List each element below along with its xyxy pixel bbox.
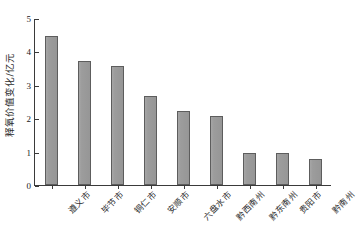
bar xyxy=(210,116,223,185)
plot-area xyxy=(34,19,331,186)
bar xyxy=(309,159,322,185)
bar xyxy=(45,36,58,185)
bar xyxy=(111,66,124,185)
x-axis-tick-label: 黔西南州 xyxy=(232,188,266,222)
bars-layer xyxy=(35,19,331,185)
bar xyxy=(78,61,91,185)
y-axis-tick-mark xyxy=(35,86,39,87)
y-axis-tick-label: 4 xyxy=(27,47,32,57)
y-axis-tick-mark xyxy=(35,153,39,154)
x-axis-tick-label: 六盘水市 xyxy=(199,188,233,222)
x-axis-tick-label: 安顺市 xyxy=(163,188,191,216)
y-axis-tick-label: 0 xyxy=(27,181,32,191)
x-axis-tick-label: 铜仁市 xyxy=(130,188,158,216)
y-axis-tick-label: 2 xyxy=(27,114,32,124)
y-axis-tick-mark xyxy=(35,52,39,53)
y-axis-tick-label: 3 xyxy=(27,81,32,91)
bar xyxy=(177,111,190,185)
x-axis-tick-label: 黔东南州 xyxy=(265,188,299,222)
x-axis-tick-label: 遵义市 xyxy=(64,188,92,216)
x-axis-tick-label: 毕节市 xyxy=(97,188,125,216)
y-axis-title: 释氧价值变化/亿元 xyxy=(0,0,18,190)
bar xyxy=(243,153,256,185)
y-axis-tick-label: 5 xyxy=(27,14,32,24)
bar xyxy=(276,153,289,185)
bar xyxy=(144,96,157,186)
x-axis-tick-labels: 遵义市毕节市铜仁市安顺市六盘水市黔西南州黔东南州贵阳市黔南州 xyxy=(34,188,331,243)
y-axis-tick-labels: 012345 xyxy=(18,0,32,243)
y-axis-tick-label: 1 xyxy=(27,148,32,158)
y-axis-tick-mark xyxy=(35,186,39,187)
x-axis-tick-label: 贵阳市 xyxy=(295,188,323,216)
y-axis-tick-mark xyxy=(35,119,39,120)
x-axis-tick-label: 黔南州 xyxy=(328,188,356,216)
y-axis-title-text: 释氧价值变化/亿元 xyxy=(2,53,16,136)
y-axis-tick-mark xyxy=(35,19,39,20)
